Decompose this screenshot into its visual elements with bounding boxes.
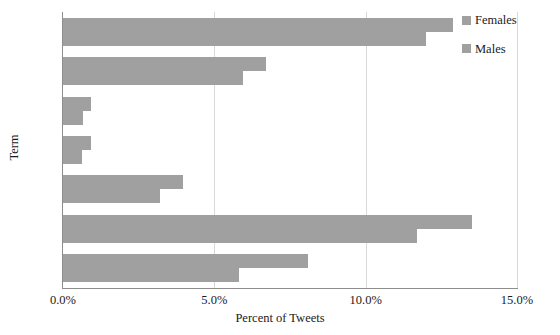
bar-group [63,215,517,243]
legend-swatch-icon [462,16,471,25]
bar-group [63,136,517,164]
legend-item-females[interactable]: Females [462,14,558,27]
plot-area [63,12,517,288]
bar-females-our [63,57,266,71]
bar-females-she [63,97,91,111]
bar-group [63,254,517,282]
bar-males-she [63,111,83,125]
bar-females-you [63,18,453,32]
bar-group [63,175,517,203]
bar-females-her [63,136,91,150]
legend-label: Females [475,14,517,27]
bar-group [63,97,517,125]
x-tick-label: 15.0% [482,293,552,308]
legend-swatch-icon [462,44,471,53]
bar-males-i [63,229,417,243]
y-axis-title: Term [7,118,22,178]
x-tick-label: 0.0% [28,293,98,308]
bar-males-our [63,71,243,85]
x-axis-line [62,288,518,289]
x-axis-title: Percent of Tweets [0,311,560,326]
bar-males-her [63,150,82,164]
bar-males-me [63,189,160,203]
bar-chart: youourshehermeimy 0.0%5.0%10.0%15.0% Ter… [0,0,560,335]
x-tick-label: 10.0% [331,293,401,308]
x-tick-label: 5.0% [179,293,249,308]
bar-males-my [63,268,239,282]
bar-males-you [63,32,426,46]
legend-item-males[interactable]: Males [462,43,558,56]
legend-label: Males [475,43,506,56]
bar-females-my [63,254,308,268]
bar-group [63,57,517,85]
bar-females-me [63,175,183,189]
legend: Females Males [462,14,558,71]
bar-females-i [63,215,472,229]
bar-group [63,18,517,46]
